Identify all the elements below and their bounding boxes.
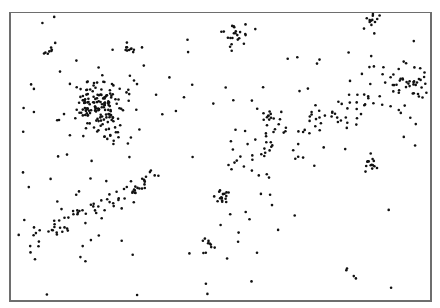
data-point — [111, 49, 114, 52]
data-point — [209, 242, 212, 245]
data-point — [233, 25, 236, 28]
data-point — [367, 97, 370, 100]
data-point — [47, 52, 50, 55]
data-point — [232, 99, 235, 102]
data-point — [227, 164, 230, 167]
data-point — [337, 121, 340, 124]
data-point — [364, 170, 367, 173]
data-point — [218, 190, 221, 193]
data-point — [251, 169, 254, 172]
data-point — [85, 89, 88, 92]
data-point — [109, 89, 112, 92]
data-point — [97, 66, 100, 69]
data-point — [144, 187, 147, 190]
data-point — [143, 183, 146, 186]
data-point — [421, 96, 424, 99]
data-point — [314, 104, 317, 107]
data-point — [93, 126, 96, 129]
data-point — [109, 134, 112, 137]
data-point — [114, 126, 117, 129]
data-point — [74, 117, 77, 120]
data-point — [274, 128, 277, 131]
data-point — [318, 109, 321, 112]
data-point — [29, 251, 32, 254]
data-point — [298, 90, 301, 93]
data-point — [79, 256, 82, 259]
data-point — [123, 188, 126, 191]
data-point — [389, 105, 392, 108]
data-point — [130, 47, 133, 50]
data-point — [130, 180, 133, 183]
data-point — [123, 197, 126, 200]
data-point — [126, 46, 129, 49]
data-point — [230, 140, 233, 143]
data-point — [55, 231, 58, 234]
data-point — [413, 92, 416, 95]
data-point — [260, 193, 263, 196]
data-point — [262, 112, 265, 115]
data-point — [66, 153, 69, 156]
data-point — [109, 105, 112, 108]
data-point — [100, 217, 103, 220]
data-point — [286, 57, 289, 60]
data-point — [52, 229, 55, 232]
data-point — [371, 158, 374, 161]
data-point — [303, 129, 306, 132]
data-point — [96, 130, 99, 133]
data-point — [33, 88, 36, 91]
data-point — [87, 114, 90, 117]
data-point — [75, 193, 78, 196]
data-point — [128, 93, 131, 96]
data-point — [107, 109, 110, 112]
data-point — [61, 231, 64, 234]
data-point — [101, 106, 104, 109]
data-point — [266, 124, 269, 127]
data-point — [270, 116, 273, 119]
data-point — [96, 97, 99, 100]
data-point — [138, 128, 141, 131]
data-point — [30, 83, 33, 86]
data-point — [67, 216, 70, 219]
data-point — [420, 86, 423, 89]
data-point — [202, 240, 205, 243]
data-point — [356, 94, 359, 97]
data-point — [229, 213, 232, 216]
data-point — [320, 122, 323, 125]
data-point — [84, 98, 87, 101]
data-point — [136, 83, 139, 86]
data-point — [229, 46, 232, 49]
data-point — [127, 88, 130, 91]
data-point — [243, 165, 246, 168]
data-point — [82, 135, 85, 138]
data-point — [353, 275, 356, 278]
data-point — [216, 200, 219, 203]
data-point — [302, 156, 305, 159]
data-point — [175, 110, 178, 113]
data-point — [46, 293, 49, 296]
data-point — [82, 108, 85, 111]
data-point — [236, 34, 239, 37]
data-point — [213, 195, 216, 198]
data-point — [310, 113, 313, 116]
data-point — [81, 245, 84, 248]
data-point — [423, 76, 426, 79]
data-point — [408, 85, 411, 88]
data-point — [271, 204, 274, 207]
data-point — [233, 32, 236, 35]
data-point — [117, 136, 120, 139]
data-point — [322, 146, 325, 149]
data-point — [107, 121, 110, 124]
data-point — [405, 86, 408, 89]
data-point — [269, 194, 272, 197]
data-point — [225, 201, 228, 204]
data-point — [226, 257, 229, 260]
data-point — [366, 160, 369, 163]
data-point — [369, 83, 372, 86]
data-point — [250, 280, 253, 283]
data-point — [161, 113, 164, 116]
data-point — [262, 118, 265, 121]
data-point — [263, 155, 266, 158]
data-point — [133, 79, 136, 82]
data-point — [266, 173, 269, 176]
data-point — [297, 130, 300, 133]
